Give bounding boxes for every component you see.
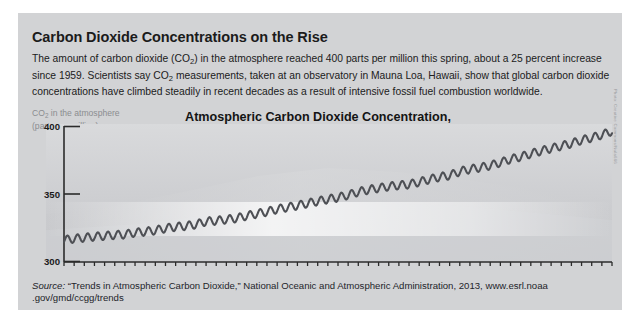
- source-text: “Trends in Atmospheric Carbon Dioxide,” …: [65, 280, 548, 291]
- co2-line-chart: 400 350 300 1959'61'63'65'67'69'71'73'75…: [18, 106, 622, 266]
- background-photo: [46, 124, 612, 262]
- deck-part-1: The amount of carbon dioxide (CO: [32, 53, 190, 64]
- page-title: Carbon Dioxide Concentrations on the Ris…: [32, 29, 592, 45]
- summary-paragraph: The amount of carbon dioxide (CO2) in th…: [32, 52, 610, 98]
- source-label: Source:: [32, 280, 65, 291]
- y-tick-label-400: 400: [44, 121, 60, 132]
- y-tick-label-350: 350: [44, 189, 60, 200]
- plot-area: 400 350 300 1959'61'63'65'67'69'71'73'75…: [18, 106, 622, 266]
- chart-region: CO2 in the atmosphere(parts per million)…: [18, 106, 622, 266]
- photo-credit: Photo: Creative Commons/Nula666: [613, 89, 618, 164]
- infographic-panel: Carbon Dioxide Concentrations on the Ris…: [18, 13, 622, 310]
- x-axis: 1959'61'63'65'67'69'71'73'75'77'79'81'83…: [56, 262, 621, 266]
- source-url-tail: .gov/gmd/ccgg/trends: [32, 292, 124, 303]
- source-citation: Source: “Trends in Atmospheric Carbon Di…: [32, 280, 607, 305]
- y-tick-label-300: 300: [44, 256, 60, 266]
